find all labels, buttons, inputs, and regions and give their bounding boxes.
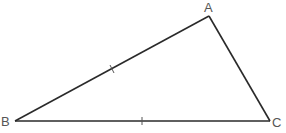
triangle-diagram: A B C	[0, 0, 286, 133]
triangle-svg	[0, 0, 286, 133]
equal-length-marks	[110, 65, 142, 125]
vertex-label-c: C	[272, 116, 281, 129]
triangle-sides	[15, 16, 270, 121]
vertex-label-b: B	[1, 115, 10, 128]
side-ca	[209, 16, 270, 121]
vertex-label-a: A	[204, 1, 213, 14]
